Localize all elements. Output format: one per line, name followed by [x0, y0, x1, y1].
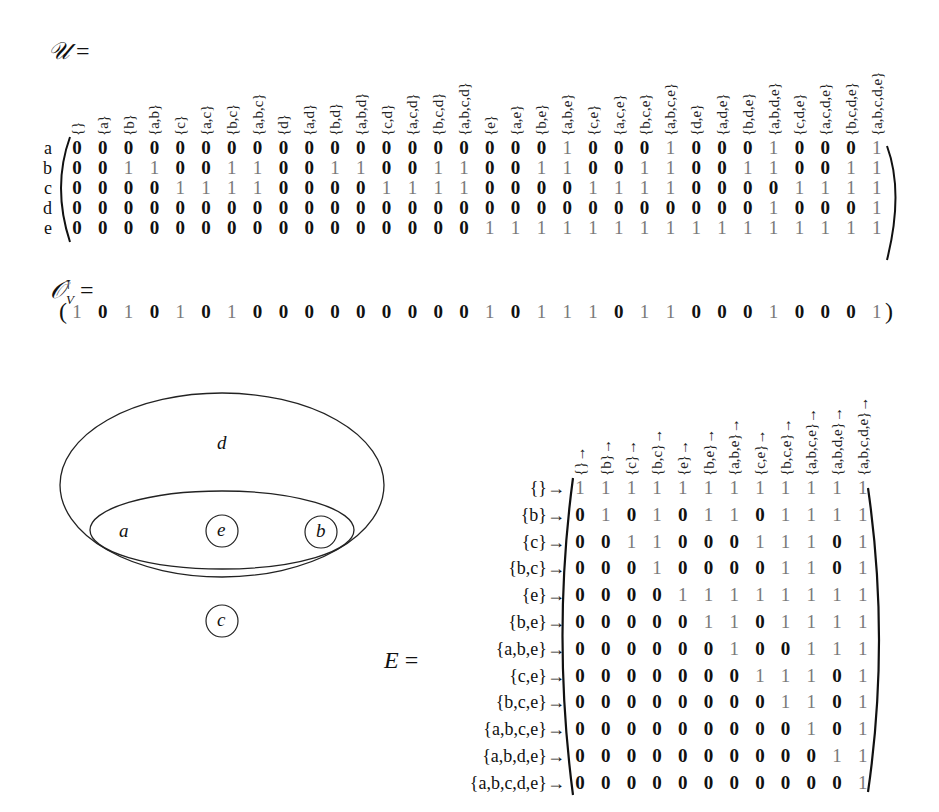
- e-cell: 1: [827, 478, 847, 498]
- e-cell: 0: [570, 692, 590, 712]
- e-column-header: {b}→: [599, 439, 614, 476]
- e-cell: 1: [801, 532, 821, 552]
- e-cell: 1: [596, 478, 616, 498]
- e-column-header: {b,c}→: [650, 429, 665, 476]
- e-cell: 0: [750, 692, 770, 712]
- e-cell: 1: [853, 478, 873, 498]
- e-cell: 1: [699, 505, 719, 525]
- e-column-header: {e}→: [676, 440, 691, 476]
- e-column-header: {a,b,c,e}→: [804, 408, 819, 476]
- e-cell: 0: [776, 719, 796, 739]
- e-cell: 1: [776, 585, 796, 605]
- e-cell: 0: [621, 505, 641, 525]
- e-cell: 1: [647, 558, 667, 578]
- venn-label-e: e: [217, 519, 225, 541]
- e-cell: 0: [673, 639, 693, 659]
- e-cell: 0: [673, 773, 693, 793]
- e-cell: 1: [827, 746, 847, 766]
- e-cell: 1: [853, 585, 873, 605]
- e-cell: 1: [724, 612, 744, 632]
- e-column-header: {a,b,c,d,e}→: [856, 397, 871, 476]
- e-cell: 0: [621, 558, 641, 578]
- e-cell: 0: [596, 773, 616, 793]
- e-cell: 0: [570, 612, 590, 632]
- e-cell: 0: [776, 639, 796, 659]
- e-cell: 0: [647, 719, 667, 739]
- e-row-label: {}→: [400, 478, 565, 498]
- e-row-label: {a,b,e}→: [400, 639, 565, 659]
- e-column-header: {a,b,e}→: [727, 418, 742, 476]
- e-row-label: {b,c,e}→: [400, 692, 565, 712]
- e-cell: 1: [647, 532, 667, 552]
- e-cell: 0: [570, 773, 590, 793]
- e-row-label: {a,b,d,e}→: [400, 746, 565, 766]
- e-cell: 1: [724, 505, 744, 525]
- e-cell: 0: [621, 639, 641, 659]
- e-cell: 0: [673, 692, 693, 712]
- e-cell: 0: [673, 666, 693, 686]
- e-cell: 0: [596, 639, 616, 659]
- e-cell: 0: [621, 719, 641, 739]
- e-cell: 0: [570, 746, 590, 766]
- e-cell: 1: [699, 612, 719, 632]
- e-cell: 1: [853, 612, 873, 632]
- e-cell: 0: [801, 773, 821, 793]
- e-cell: 0: [724, 719, 744, 739]
- e-cell: 1: [776, 612, 796, 632]
- e-cell: 0: [699, 719, 719, 739]
- e-symbol: E: [384, 647, 399, 673]
- e-cell: 1: [853, 532, 873, 552]
- e-cell: 1: [801, 558, 821, 578]
- e-cell: 0: [673, 505, 693, 525]
- e-cell: 0: [699, 692, 719, 712]
- e-cell: 0: [621, 585, 641, 605]
- e-cell: 1: [853, 558, 873, 578]
- e-cell: 0: [673, 558, 693, 578]
- e-column-header: {b,c,e}→: [779, 418, 794, 476]
- e-cell: 1: [724, 585, 744, 605]
- e-cell: 0: [647, 612, 667, 632]
- e-cell: 1: [827, 639, 847, 659]
- e-cell: 0: [673, 612, 693, 632]
- e-cell: 1: [853, 505, 873, 525]
- e-cell: 0: [647, 639, 667, 659]
- e-cell: 0: [724, 773, 744, 793]
- e-cell: 0: [801, 746, 821, 766]
- e-cell: 0: [570, 532, 590, 552]
- e-cell: 1: [853, 773, 873, 793]
- e-cell: 1: [750, 478, 770, 498]
- e-cell: 1: [750, 666, 770, 686]
- e-row-label: {a,b,c,e}→: [400, 719, 565, 739]
- e-cell: 0: [750, 719, 770, 739]
- e-column-header: {c}→: [624, 440, 639, 476]
- e-cell: 0: [724, 692, 744, 712]
- e-cell: 0: [596, 666, 616, 686]
- e-cell: 1: [570, 478, 590, 498]
- e-cell: 0: [621, 692, 641, 712]
- e-cell: 0: [596, 532, 616, 552]
- e-column-header: {c,e}→: [753, 430, 768, 476]
- e-cell: 0: [673, 532, 693, 552]
- venn-label-a: a: [119, 520, 129, 542]
- e-cell: 0: [621, 746, 641, 766]
- e-cell: 0: [827, 773, 847, 793]
- e-cell: 0: [621, 773, 641, 793]
- e-cell: 0: [647, 585, 667, 605]
- e-cell: 0: [621, 666, 641, 686]
- e-row-label: {a,b,c,d,e}→: [400, 773, 565, 793]
- e-cell: 1: [801, 585, 821, 605]
- e-cell: 0: [750, 639, 770, 659]
- e-cell: 0: [699, 746, 719, 766]
- venn-label-d: d: [217, 432, 227, 454]
- e-cell: 0: [596, 692, 616, 712]
- e-cell: 0: [673, 719, 693, 739]
- e-cell: 1: [853, 666, 873, 686]
- e-cell: 1: [827, 585, 847, 605]
- e-cell: 1: [776, 532, 796, 552]
- venn-label-c: c: [217, 609, 225, 631]
- e-cell: 1: [853, 692, 873, 712]
- e-cell: 1: [801, 719, 821, 739]
- e-cell: 0: [570, 719, 590, 739]
- e-cell: 0: [750, 773, 770, 793]
- e-cell: 1: [801, 666, 821, 686]
